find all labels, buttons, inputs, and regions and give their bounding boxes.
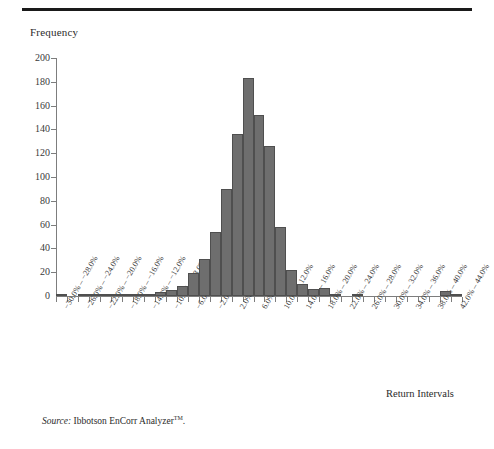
y-axis-tick-label: 20 xyxy=(40,267,50,277)
x-axis-tick xyxy=(385,297,386,302)
x-axis-tick xyxy=(407,297,408,302)
y-axis-tick-label: 200 xyxy=(35,53,50,63)
histogram-bar xyxy=(232,134,243,296)
histogram-bar xyxy=(144,294,155,296)
x-axis-tick xyxy=(319,297,320,302)
histogram-bar xyxy=(221,189,232,296)
source-period: . xyxy=(183,416,185,426)
x-axis-tick xyxy=(210,297,211,302)
histogram-bar xyxy=(133,294,144,296)
y-axis-tick-label: 80 xyxy=(40,196,50,206)
histogram-bar xyxy=(177,286,188,296)
histogram-chart: Frequency Return Intervals 0204060801001… xyxy=(0,0,494,449)
histogram-bar xyxy=(199,259,210,296)
histogram-bar xyxy=(155,292,166,296)
histogram-bar xyxy=(210,232,221,296)
y-axis-tick-label: 60 xyxy=(40,220,50,230)
histogram-bar xyxy=(188,273,199,296)
x-axis-tick xyxy=(232,297,233,302)
x-axis-tick xyxy=(100,297,101,302)
histogram-bar xyxy=(297,284,308,296)
x-axis-tick xyxy=(78,297,79,302)
histogram-bar xyxy=(275,227,286,296)
histogram-bar xyxy=(56,294,67,296)
histogram-bar xyxy=(330,294,341,296)
histogram-bar xyxy=(111,294,122,296)
trademark-mark: TM xyxy=(174,415,183,421)
y-axis-tick-label: 100 xyxy=(35,172,50,182)
histogram-bar xyxy=(122,294,133,296)
histogram-bar xyxy=(308,289,319,296)
y-axis-tick-label: 120 xyxy=(35,148,50,158)
x-axis-tick xyxy=(341,297,342,302)
x-axis-tick xyxy=(166,297,167,302)
histogram-bar xyxy=(89,294,100,296)
x-axis-tick xyxy=(363,297,364,302)
histogram-bar xyxy=(352,294,363,296)
source-label: Source: xyxy=(42,416,71,426)
histogram-bar xyxy=(440,291,451,296)
top-divider-rule xyxy=(22,8,472,11)
y-axis-tick-label: 180 xyxy=(35,77,50,87)
x-axis-tick xyxy=(144,297,145,302)
histogram-bar xyxy=(254,115,265,296)
x-axis-title: Return Intervals xyxy=(386,388,454,399)
source-note: Source: Ibbotson EnCorr AnalyzerTM. xyxy=(42,415,185,426)
x-axis-tick xyxy=(122,297,123,302)
histogram-bar xyxy=(264,146,275,296)
histogram-bar xyxy=(78,294,89,296)
x-axis-tick xyxy=(188,297,189,302)
histogram-bar xyxy=(100,294,111,296)
x-axis-tick xyxy=(429,297,430,302)
y-axis-tick-label: 140 xyxy=(35,124,50,134)
y-axis-labels: 020406080100120140160180200 xyxy=(10,0,50,449)
x-axis-tick xyxy=(275,297,276,302)
histogram-bar xyxy=(243,78,254,296)
y-axis-tick-label: 0 xyxy=(45,291,50,301)
histogram-bar xyxy=(451,294,462,296)
y-axis-tick-label: 40 xyxy=(40,243,50,253)
bar-series xyxy=(56,58,462,296)
x-axis-tick xyxy=(254,297,255,302)
x-axis-tick xyxy=(297,297,298,302)
histogram-bar xyxy=(166,290,177,296)
x-axis-tick xyxy=(56,297,57,302)
x-axis-tick xyxy=(451,297,452,302)
histogram-bar xyxy=(319,288,330,296)
histogram-bar xyxy=(286,270,297,296)
y-axis-tick-label: 160 xyxy=(35,101,50,111)
source-text: Ibbotson EnCorr Analyzer xyxy=(74,416,174,426)
